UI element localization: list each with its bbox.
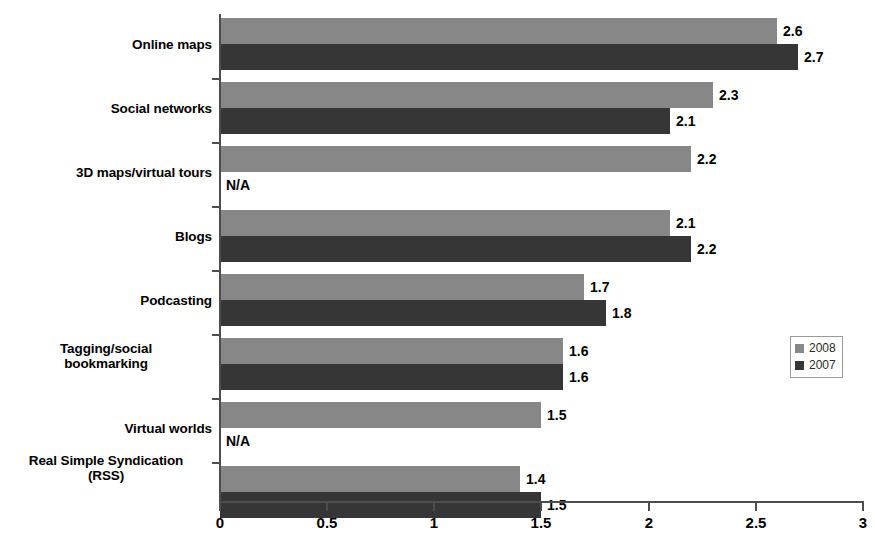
x-axis-tick bbox=[433, 503, 435, 511]
bar-value-2008-3d-maps-virtual-tours: 2.2 bbox=[697, 146, 716, 172]
legend-swatch-icon-2007 bbox=[795, 361, 804, 370]
bar-value-2008-virtual-worlds: 1.5 bbox=[547, 402, 566, 428]
y-axis-tick bbox=[212, 334, 220, 336]
y-axis-tick bbox=[212, 142, 220, 144]
bar-2007-social-networks bbox=[220, 108, 670, 134]
bar-2008-social-networks bbox=[220, 82, 713, 108]
bar-2007-podcasting bbox=[220, 300, 606, 326]
y-axis-tick bbox=[212, 206, 220, 208]
y-axis-tick bbox=[212, 398, 220, 400]
category-label-line-1: Tagging/social bbox=[0, 341, 214, 356]
bar-value-2007-blogs: 2.2 bbox=[697, 236, 716, 262]
bar-2007-tagging-social-bookmarking bbox=[220, 364, 563, 390]
bar-value-2007-online-maps: 2.7 bbox=[804, 44, 823, 70]
x-axis-tick-label: 2 bbox=[629, 514, 669, 531]
bar-2008-blogs bbox=[220, 210, 670, 236]
bar-value-2008-online-maps: 2.6 bbox=[783, 18, 802, 44]
legend: 2008 2007 bbox=[790, 336, 843, 378]
category-label-social-networks: Social networks bbox=[0, 101, 212, 116]
x-axis-tick-label: 0 bbox=[200, 514, 240, 531]
x-axis-tick-label: 1 bbox=[414, 514, 454, 531]
bar-2008-rss bbox=[220, 466, 520, 492]
x-axis-tick bbox=[862, 503, 864, 511]
x-axis-tick-label: 2.5 bbox=[736, 514, 776, 531]
y-axis-line bbox=[219, 14, 221, 502]
legend-item-2008: 2008 bbox=[795, 340, 836, 357]
x-axis-tick bbox=[648, 503, 650, 511]
x-axis-tick-label: 3 bbox=[843, 514, 875, 531]
legend-swatch-icon-2008 bbox=[795, 344, 804, 353]
category-label-line-2: (RSS) bbox=[0, 468, 214, 483]
bar-2007-rss bbox=[220, 492, 541, 518]
x-axis-tick-label: 0.5 bbox=[307, 514, 347, 531]
x-axis-tick bbox=[219, 503, 221, 511]
bar-value-2007-virtual-worlds-na: N/A bbox=[226, 428, 250, 454]
x-axis-tick bbox=[755, 503, 757, 511]
bar-value-2008-social-networks: 2.3 bbox=[719, 82, 738, 108]
legend-label-2007: 2007 bbox=[809, 359, 836, 372]
bar-value-2008-tagging-social-bookmarking: 1.6 bbox=[569, 338, 588, 364]
category-label-blogs: Blogs bbox=[0, 229, 212, 244]
bar-value-2007-podcasting: 1.8 bbox=[612, 300, 631, 326]
category-label-3d-maps-virtual-tours: 3D maps/virtual tours bbox=[0, 165, 212, 180]
bar-2008-online-maps bbox=[220, 18, 777, 44]
bar-2007-online-maps bbox=[220, 44, 798, 70]
x-axis-tick-label: 1.5 bbox=[521, 514, 561, 531]
category-label-podcasting: Podcasting bbox=[0, 293, 212, 308]
bar-value-2007-3d-maps-virtual-tours-na: N/A bbox=[226, 172, 250, 198]
bar-2008-virtual-worlds bbox=[220, 402, 541, 428]
bar-2008-3d-maps-virtual-tours bbox=[220, 146, 691, 172]
category-label-tagging-social-bookmarking: Tagging/social bookmarking bbox=[0, 341, 214, 371]
bar-value-2007-social-networks: 2.1 bbox=[676, 108, 695, 134]
bar-value-2007-tagging-social-bookmarking: 1.6 bbox=[569, 364, 588, 390]
legend-item-2007: 2007 bbox=[795, 357, 836, 374]
bar-2008-tagging-social-bookmarking bbox=[220, 338, 563, 364]
bar-2008-podcasting bbox=[220, 274, 584, 300]
x-axis-tick bbox=[540, 503, 542, 511]
category-label-real-simple-syndication: Real Simple Syndication (RSS) bbox=[0, 453, 214, 483]
bar-value-2008-blogs: 2.1 bbox=[676, 210, 695, 236]
bar-2007-blogs bbox=[220, 236, 691, 262]
category-label-virtual-worlds: Virtual worlds bbox=[0, 421, 212, 436]
category-label-line-2: bookmarking bbox=[0, 356, 214, 371]
category-label-online-maps: Online maps bbox=[0, 37, 212, 52]
x-axis-tick bbox=[326, 503, 328, 511]
bar-value-2008-podcasting: 1.7 bbox=[590, 274, 609, 300]
y-axis-tick bbox=[212, 462, 220, 464]
bar-value-2008-rss: 1.4 bbox=[526, 466, 545, 492]
legend-label-2008: 2008 bbox=[809, 342, 836, 355]
y-axis-tick bbox=[212, 78, 220, 80]
bar-chart: Online maps Social networks 3D maps/virt… bbox=[0, 0, 875, 552]
category-label-line-1: Real Simple Syndication bbox=[0, 453, 214, 468]
y-axis-tick bbox=[212, 270, 220, 272]
plot-area: 2.6 2.7 2.3 2.1 2.2 N/A 2.1 2.2 1.7 1.8 … bbox=[220, 14, 863, 501]
